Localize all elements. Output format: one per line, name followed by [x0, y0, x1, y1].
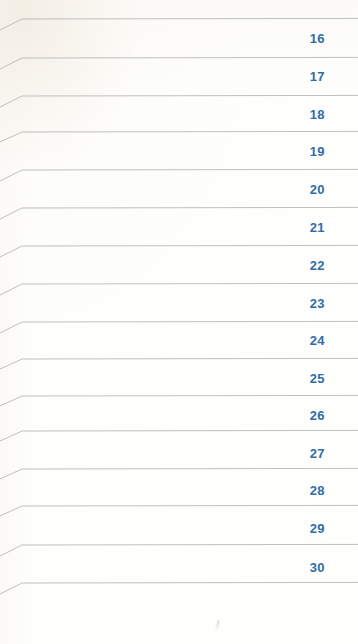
- ruled-line: [0, 314, 358, 330]
- ruled-line: [0, 575, 358, 591]
- ruled-line-stroke: [0, 544, 358, 556]
- row-number: 21: [285, 220, 325, 235]
- row-number: 30: [285, 560, 325, 575]
- row-number: 28: [285, 483, 325, 498]
- row-number: 22: [285, 258, 325, 273]
- ruled-line-stroke: [0, 582, 358, 594]
- row-number: 23: [285, 296, 325, 311]
- ruled-line: [0, 11, 358, 27]
- row-number: 19: [285, 144, 325, 159]
- ruled-line-stroke: [0, 169, 358, 181]
- row-number: 25: [285, 371, 325, 386]
- row-number: 18: [285, 107, 325, 122]
- ruled-line-stroke: [0, 358, 358, 369]
- row-number: 24: [285, 333, 325, 348]
- ruled-line-stroke: [0, 283, 358, 295]
- ruled-line: [0, 461, 358, 477]
- ruled-line-stroke: [0, 505, 358, 516]
- ruled-line-stroke: [0, 207, 358, 219]
- row-number: 27: [285, 446, 325, 461]
- ruled-line: [0, 124, 358, 140]
- ruled-line: [0, 88, 358, 104]
- row-number: 17: [285, 69, 325, 84]
- ruled-line: [0, 50, 358, 66]
- ruled-line-stroke: [0, 245, 358, 257]
- row-number: 26: [285, 408, 325, 423]
- ruled-line-stroke: [0, 131, 358, 142]
- ruled-line-stroke: [0, 430, 358, 441]
- ruled-line-stroke: [0, 395, 358, 406]
- ruled-line: [0, 238, 358, 254]
- scanned-page: 161718192021222324252627282930: [0, 0, 358, 644]
- ruled-line-stroke: [0, 468, 358, 479]
- ruled-line: [0, 423, 358, 439]
- ruled-line: [0, 276, 358, 292]
- ruled-line-stroke: [0, 321, 358, 333]
- ruled-line: [0, 200, 358, 216]
- row-number: 29: [285, 521, 325, 536]
- ruled-line-stroke: [0, 95, 358, 107]
- ruled-line: [0, 537, 358, 553]
- row-number: 20: [285, 182, 325, 197]
- scan-speck-artifact: [215, 620, 220, 632]
- ruled-line: [0, 388, 358, 404]
- ruled-line: [0, 498, 358, 514]
- row-number: 16: [285, 31, 325, 46]
- ruled-line: [0, 162, 358, 178]
- ruled-line: [0, 351, 358, 367]
- ruled-line-stroke: [0, 57, 358, 69]
- ruled-line-stroke: [0, 18, 358, 30]
